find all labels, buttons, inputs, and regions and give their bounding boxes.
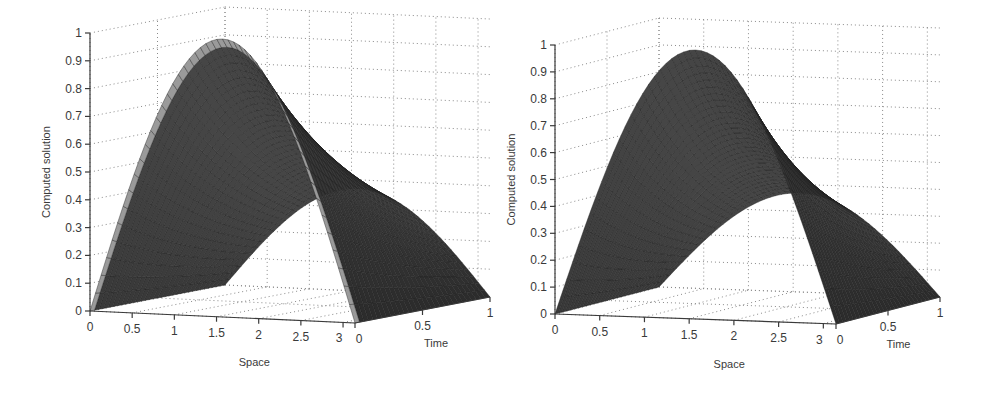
z-tick-label: 1 [540, 38, 547, 52]
time-tick-label: 1 [937, 306, 944, 320]
time-tick-label: 0 [837, 333, 844, 347]
z-tick-label: 0.2 [530, 253, 547, 267]
figure: 00.10.20.30.40.50.60.70.80.9100.511.522.… [0, 0, 985, 393]
surface-plot-right: 00.10.20.30.40.50.60.70.80.9100.511.522.… [0, 0, 985, 393]
space-tick-label: 0 [552, 323, 559, 337]
space-tick-label: 2 [731, 329, 738, 343]
z-tick-label: 0.8 [530, 92, 547, 106]
space-tick-label: 0.5 [591, 325, 608, 339]
space-axis [555, 314, 836, 324]
z-axis-title: Computed solution [505, 134, 517, 226]
z-tick-label: 0.1 [530, 280, 547, 294]
z-tick-label: 0.9 [530, 65, 547, 79]
surface-mesh [555, 50, 940, 324]
z-tick-label: 0 [540, 307, 547, 321]
z-tick-label: 0.5 [530, 173, 547, 187]
time-axis-title: Time [886, 338, 910, 350]
space-axis-title: Space [714, 358, 745, 370]
plot-right: 00.10.20.30.40.50.60.70.80.9100.511.522.… [505, 18, 944, 370]
time-tick-label: 0.5 [880, 320, 897, 334]
space-tick-label: 2.5 [770, 331, 787, 345]
space-tick-label: 3 [816, 333, 823, 347]
z-tick-label: 0.7 [530, 119, 547, 133]
z-tick-label: 0.3 [530, 226, 547, 240]
z-tick-label: 0.4 [530, 199, 547, 213]
space-tick-label: 1.5 [681, 328, 698, 342]
space-tick-label: 1 [641, 326, 648, 340]
z-tick-label: 0.6 [530, 146, 547, 160]
